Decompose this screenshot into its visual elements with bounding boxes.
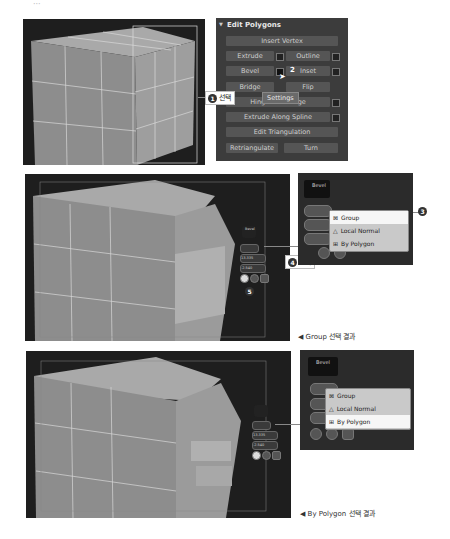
bevel-caddy-title: Bevel bbox=[304, 180, 330, 198]
local-normal-icon: △ bbox=[333, 224, 338, 237]
caption-polygon-result: ◀ By Polygon 선택 결과 bbox=[300, 508, 375, 518]
bevel-height-field[interactable] bbox=[304, 219, 332, 231]
by-polygon-icon: ⊞ bbox=[333, 237, 338, 250]
bevel-caddy-panel-polygon: Bevel ⊠Group △Local Normal ⊞By Polygon bbox=[300, 350, 414, 450]
by-polygon-icon: ⊞ bbox=[329, 415, 334, 428]
viewport-2[interactable]: Bevel 13.335 -2.540 5 bbox=[25, 174, 290, 341]
edit-triangulation-button[interactable]: Edit Triangulation bbox=[226, 127, 338, 137]
mini-bevel-title-3 bbox=[254, 405, 268, 417]
bevel-caddy-title-3: Bevel bbox=[308, 357, 338, 376]
mini-apply-button-3[interactable] bbox=[262, 451, 271, 460]
bevel-ok-button-3[interactable] bbox=[310, 428, 322, 440]
viewport-1[interactable] bbox=[23, 19, 205, 165]
local-normal-icon: △ bbox=[329, 402, 334, 415]
hinge-settings-icon[interactable] bbox=[332, 99, 340, 107]
settings-tooltip: Settings bbox=[262, 92, 299, 104]
mini-bevel-title: Bevel bbox=[242, 226, 256, 238]
arrow-line-2 bbox=[264, 246, 298, 247]
mini-type-pill[interactable] bbox=[240, 244, 259, 253]
bevel-caddy-panel-group: Bevel ⊠Group △Local Normal ⊞By Polygon bbox=[298, 173, 413, 265]
menu-item-group[interactable]: ⊠Group bbox=[330, 211, 408, 224]
menu-item-local-normal[interactable]: △Local Normal bbox=[330, 224, 408, 237]
bevel-type-menu: ⊠Group △Local Normal ⊞By Polygon bbox=[329, 210, 409, 252]
edit-polygons-panel: ▼ Edit Polygons Insert Vertex Extrude Ou… bbox=[216, 18, 348, 161]
mini-type-pill-3[interactable] bbox=[252, 421, 271, 430]
outline-settings-icon[interactable] bbox=[332, 53, 340, 61]
mini-height-pill[interactable]: 13.335 bbox=[240, 254, 266, 263]
menu-item-group-3[interactable]: ⊠Group bbox=[326, 389, 410, 402]
arrow-line-3 bbox=[275, 424, 300, 425]
menu-item-by-polygon[interactable]: ⊞By Polygon bbox=[330, 237, 408, 250]
cursor-icon: ➤ bbox=[279, 72, 286, 81]
retriangulate-button[interactable]: Retriangulate bbox=[226, 143, 278, 153]
mini-height-pill-3[interactable]: 13.335 bbox=[252, 431, 278, 440]
step-2-marker: 2 bbox=[290, 66, 295, 74]
turn-button[interactable]: Turn bbox=[284, 143, 338, 153]
outline-button[interactable]: Outline bbox=[286, 51, 330, 61]
callout-select: 1 선택 bbox=[205, 91, 235, 105]
collapse-arrow-icon[interactable]: ▼ bbox=[219, 21, 223, 27]
extrude-settings-icon[interactable] bbox=[276, 53, 284, 61]
bevel-button[interactable]: Bevel bbox=[226, 66, 274, 76]
callout-1-label: 선택 bbox=[219, 92, 231, 104]
mini-apply-button[interactable] bbox=[250, 274, 259, 283]
bevel-outline-field[interactable] bbox=[304, 233, 332, 245]
step-1-badge: 1 bbox=[208, 94, 217, 103]
step-3-badge: 3 bbox=[418, 207, 427, 216]
menu-item-local-normal-3[interactable]: △Local Normal bbox=[326, 402, 410, 415]
mini-outline-pill-3[interactable]: -2.540 bbox=[252, 441, 278, 450]
panel-title: Edit Polygons bbox=[227, 21, 281, 29]
caption-group-result: ◀ Group 선택 결과 bbox=[298, 331, 355, 341]
bevel-type-dropdown[interactable] bbox=[304, 205, 332, 217]
extrude-button[interactable]: Extrude bbox=[226, 51, 274, 61]
inset-settings-icon[interactable] bbox=[332, 68, 340, 76]
step-5-badge: 5 bbox=[245, 287, 254, 296]
spline-settings-icon[interactable] bbox=[332, 114, 340, 122]
insert-vertex-button[interactable]: Insert Vertex bbox=[226, 36, 338, 46]
mini-ok-button[interactable] bbox=[240, 274, 249, 283]
group-icon: ⊠ bbox=[333, 211, 338, 224]
extrude-along-spline-button[interactable]: Extrude Along Spline bbox=[226, 112, 330, 122]
flip-button[interactable]: Flip bbox=[286, 82, 330, 92]
mini-outline-pill[interactable]: -2.540 bbox=[240, 264, 266, 273]
page-marker: ··· bbox=[33, 0, 41, 9]
cube-model-1 bbox=[23, 19, 205, 165]
mini-cancel-button-3[interactable] bbox=[272, 451, 281, 460]
menu-item-by-polygon-3[interactable]: ⊞By Polygon bbox=[326, 415, 410, 428]
mini-cancel-button[interactable] bbox=[260, 274, 269, 283]
group-icon: ⊠ bbox=[329, 389, 334, 402]
mini-ok-button-3[interactable] bbox=[252, 451, 261, 460]
step-4-badge: 4 bbox=[288, 258, 297, 267]
bevel-type-menu-3: ⊠Group △Local Normal ⊞By Polygon bbox=[325, 388, 411, 430]
viewport-3[interactable]: 13.335 -2.540 bbox=[26, 351, 291, 518]
